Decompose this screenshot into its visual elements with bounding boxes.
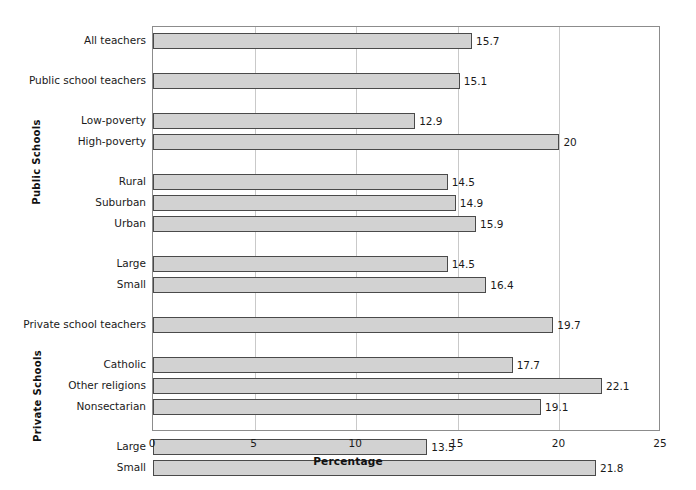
bar-value-label: 15.1 bbox=[460, 75, 487, 87]
x-axis-tick-label: 0 bbox=[132, 437, 172, 449]
bar-row: 15.9 bbox=[153, 216, 661, 232]
category-axis-label: Rural bbox=[0, 173, 146, 189]
x-axis-title: Percentage bbox=[0, 455, 696, 467]
bar-value-label: 16.4 bbox=[486, 279, 513, 291]
bar-value-label: 14.5 bbox=[448, 258, 475, 270]
bar bbox=[153, 256, 448, 272]
bar-value-label: 19.1 bbox=[541, 401, 568, 413]
bar-value-label: 17.7 bbox=[513, 359, 540, 371]
bar-row: 19.1 bbox=[153, 399, 661, 415]
category-axis-label: High-poverty bbox=[0, 133, 146, 149]
bar bbox=[153, 277, 486, 293]
bar-value-label: 20 bbox=[559, 136, 576, 148]
bar bbox=[153, 399, 541, 415]
bar-value-label: 14.9 bbox=[456, 197, 483, 209]
bar-row: 15.7 bbox=[153, 33, 661, 49]
bar bbox=[153, 357, 513, 373]
category-axis-label: Suburban bbox=[0, 194, 146, 210]
bar-row: 19.7 bbox=[153, 317, 661, 333]
bar-row: 17.7 bbox=[153, 357, 661, 373]
category-axis-label: Catholic bbox=[0, 356, 146, 372]
category-axis-label: Nonsectarian bbox=[0, 398, 146, 414]
x-axis-tick-label: 25 bbox=[640, 437, 680, 449]
bar-value-label: 19.7 bbox=[553, 319, 580, 331]
x-axis-tick-label: 15 bbox=[437, 437, 477, 449]
category-axis-label: Small bbox=[0, 276, 146, 292]
bar bbox=[153, 378, 602, 394]
bar-value-label: 15.7 bbox=[472, 35, 499, 47]
bar bbox=[153, 33, 472, 49]
bar-value-label: 14.5 bbox=[448, 176, 475, 188]
category-axis-label: Urban bbox=[0, 215, 146, 231]
category-axis-label: Public school teachers bbox=[0, 72, 146, 88]
bar bbox=[153, 195, 456, 211]
bar-row: 12.9 bbox=[153, 113, 661, 129]
bar-value-label: 22.1 bbox=[602, 380, 629, 392]
bar-row: 22.1 bbox=[153, 378, 661, 394]
bar bbox=[153, 439, 427, 455]
bar bbox=[153, 317, 553, 333]
x-axis-tick-label: 5 bbox=[234, 437, 274, 449]
bar bbox=[153, 73, 460, 89]
category-axis-label: Low-poverty bbox=[0, 112, 146, 128]
bar-row: 14.9 bbox=[153, 195, 661, 211]
group-axis-title-public-schools: Public Schools bbox=[31, 32, 45, 292]
plot-area: 15.715.112.92014.514.915.914.516.419.717… bbox=[152, 26, 660, 431]
bar-row: 14.5 bbox=[153, 174, 661, 190]
category-axis-label: Large bbox=[0, 255, 146, 271]
bar-row: 15.1 bbox=[153, 73, 661, 89]
x-axis-tick-label: 20 bbox=[538, 437, 578, 449]
bar-row: 14.5 bbox=[153, 256, 661, 272]
bar-row: 13.5 bbox=[153, 439, 661, 455]
bar bbox=[153, 113, 415, 129]
category-axis-label: All teachers bbox=[0, 32, 146, 48]
bar-row: 16.4 bbox=[153, 277, 661, 293]
x-axis-tick-label: 10 bbox=[335, 437, 375, 449]
category-axis-label: Large bbox=[0, 438, 146, 454]
bar-row: 20 bbox=[153, 134, 661, 150]
category-axis-label: Other religions bbox=[0, 377, 146, 393]
bar bbox=[153, 174, 448, 190]
category-axis-label: Private school teachers bbox=[0, 316, 146, 332]
bar-chart: Public Schools Private Schools All teach… bbox=[0, 0, 696, 490]
bar bbox=[153, 216, 476, 232]
bar-value-label: 12.9 bbox=[415, 115, 442, 127]
bar bbox=[153, 134, 559, 150]
bar-value-label: 15.9 bbox=[476, 218, 503, 230]
